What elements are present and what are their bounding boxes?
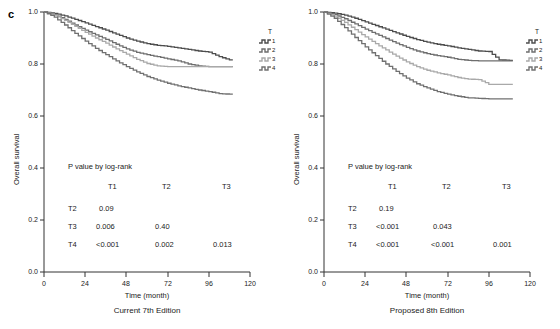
figure-panel-c: c 0.0 <box>0 0 560 329</box>
legend-swatch-4 <box>259 67 271 70</box>
legend-label-3: 3 <box>539 56 542 62</box>
legend-samples-left <box>0 0 280 329</box>
legend-label-2: 2 <box>539 47 542 53</box>
legend-label-1: 1 <box>272 38 275 44</box>
legend-swatch-3 <box>526 58 538 61</box>
chart-panel-current-7th: 0.0 0.2 0.4 0.6 0.8 1.0 0 24 48 72 96 12… <box>0 0 280 329</box>
panel-caption-current: Current 7th Edition <box>47 306 247 315</box>
legend-swatches-right <box>526 40 538 70</box>
legend-label-1: 1 <box>539 38 542 44</box>
legend-label-4: 4 <box>539 65 542 71</box>
legend-label-2: 2 <box>272 47 275 53</box>
chart-panel-proposed-8th: 0.0 0.2 0.4 0.6 0.8 1.0 0 24 48 72 96 12… <box>280 0 560 329</box>
legend-swatch-4 <box>526 67 538 70</box>
legend-samples-right <box>280 0 560 329</box>
legend-label-3: 3 <box>272 56 275 62</box>
legend-swatch-2 <box>526 49 538 52</box>
legend-label-4: 4 <box>272 65 275 71</box>
legend-swatch-3 <box>259 58 271 61</box>
panel-caption-proposed: Proposed 8th Edition <box>327 306 527 315</box>
legend-swatch-1 <box>259 40 271 43</box>
legend-swatch-2 <box>259 49 271 52</box>
legend-swatch-1 <box>526 40 538 43</box>
legend-swatches-left <box>259 40 271 70</box>
legend-left: T 1 2 3 4 <box>0 0 280 329</box>
legend-right: T 1 2 3 4 <box>280 0 560 329</box>
